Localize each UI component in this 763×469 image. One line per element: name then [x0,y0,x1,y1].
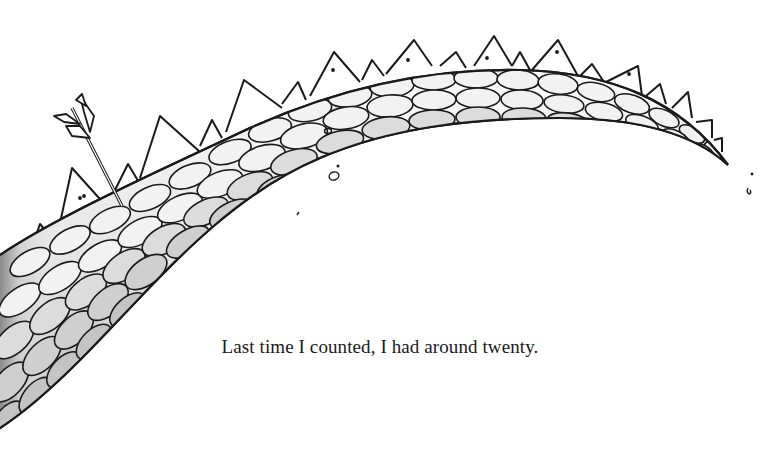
dragon-tail-illustration [0,0,763,469]
caption-text: Last time I counted, I had around twenty… [190,336,570,358]
tail-body [0,68,728,445]
specks [297,165,753,215]
storybook-page: Last time I counted, I had around twenty… [0,0,763,469]
